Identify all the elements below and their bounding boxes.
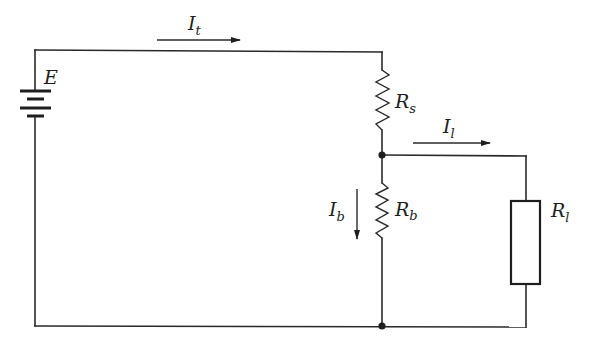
wire-junction-right xyxy=(382,155,526,156)
resistor-rl-label: Rl xyxy=(550,199,569,225)
resistor-rb-icon xyxy=(376,183,388,238)
circuit-diagram: E Rs Rb Rl It Il Ib xyxy=(0,0,589,345)
source-label: E xyxy=(43,66,58,88)
junction-bottom-dot xyxy=(378,322,385,329)
current-il-label: Il xyxy=(442,115,455,141)
current-it-label: It xyxy=(187,12,202,38)
battery-icon xyxy=(20,91,51,116)
wire-bottom xyxy=(35,326,526,327)
resistor-rs-icon xyxy=(376,70,389,130)
resistor-rl-icon xyxy=(511,201,540,284)
resistor-rs-label: Rs xyxy=(394,90,416,116)
junction-top-dot xyxy=(378,151,385,158)
wire-top xyxy=(35,50,382,52)
current-ib-label: Ib xyxy=(328,198,345,224)
resistor-rb-label: Rb xyxy=(394,198,418,223)
wires xyxy=(35,50,526,327)
